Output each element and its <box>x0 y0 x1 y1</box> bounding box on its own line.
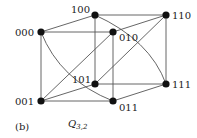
edge-110-101 <box>95 15 166 84</box>
node-111 <box>162 80 169 87</box>
edges <box>41 15 166 101</box>
node-label-011: 011 <box>119 102 138 113</box>
hypercube-diagram: 000100010110101111001011 Q3,2 (b) <box>0 0 197 138</box>
edge-011-111 <box>113 84 166 101</box>
node-100 <box>91 11 98 18</box>
node-label-001: 001 <box>15 96 34 107</box>
node-000 <box>37 28 44 35</box>
node-label-111: 111 <box>172 79 191 90</box>
node-label-000: 000 <box>15 27 34 38</box>
edge-010-001 <box>41 32 113 101</box>
panel-label: (b) <box>15 121 29 132</box>
nodes <box>37 11 169 104</box>
node-label-101: 101 <box>72 74 91 85</box>
node-110 <box>162 11 169 18</box>
node-label-100: 100 <box>71 4 90 15</box>
node-001 <box>37 97 44 104</box>
graph-title: Q3,2 <box>68 118 88 131</box>
edge-000-100 <box>41 15 95 32</box>
node-010 <box>109 28 116 35</box>
node-label-010: 010 <box>119 32 138 43</box>
node-101 <box>91 80 98 87</box>
node-011 <box>109 97 116 104</box>
node-label-110: 110 <box>172 10 191 21</box>
edge-101-001 <box>41 84 95 101</box>
